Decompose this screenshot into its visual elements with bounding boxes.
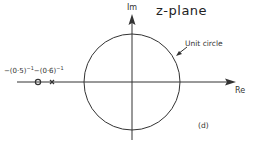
panel-label: (d) [198, 122, 209, 130]
pole-exponent: −1 [56, 65, 63, 71]
real-axis-label: Re [235, 87, 245, 95]
pole-value: −(0·6) [34, 67, 56, 75]
imaginary-axis-label: Im [127, 4, 137, 12]
unit-circle-label: Unit circle [185, 40, 223, 48]
diagram-title: z-plane [156, 4, 207, 17]
zero-exponent: −1 [26, 65, 33, 71]
points-label: −(0·5)−1−(0·6)−1 [4, 66, 64, 75]
z-plane-diagram [0, 0, 258, 150]
zero-value: −(0·5) [4, 67, 26, 75]
